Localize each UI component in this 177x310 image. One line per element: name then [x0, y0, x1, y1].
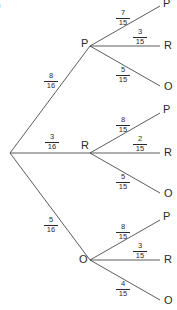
- leaf-r-p: P: [163, 104, 170, 115]
- leaf-o-p: P: [163, 211, 170, 222]
- leaf-r-o: O: [164, 188, 173, 199]
- leaf-p-o: O: [164, 81, 173, 92]
- leaf-r-r: R: [164, 147, 172, 158]
- tree-branches: [0, 0, 177, 310]
- prob-r-r: 2 15: [133, 135, 147, 153]
- leaf-p-r: R: [164, 40, 172, 51]
- prob-o-r: 3 15: [133, 242, 147, 260]
- prob-root-o: 5 16: [44, 216, 58, 234]
- node-r: R: [81, 140, 89, 151]
- prob-r-p: 8 15: [116, 116, 130, 134]
- leaf-o-o: O: [164, 295, 173, 306]
- prob-r-o: 5 15: [116, 173, 130, 191]
- prob-o-o: 4 15: [116, 280, 130, 298]
- node-o: O: [79, 254, 88, 265]
- branch-root-o: [10, 153, 90, 260]
- prob-root-r: 3 16: [45, 133, 59, 151]
- prob-p-p: 7 15: [116, 9, 130, 27]
- prob-p-r: 3 15: [133, 28, 147, 46]
- prob-p-o: 5 15: [116, 66, 130, 84]
- prob-root-p: 8 16: [44, 72, 58, 90]
- node-p: P: [81, 38, 88, 49]
- leaf-o-r: R: [164, 254, 172, 265]
- prob-o-p: 8 15: [116, 223, 130, 241]
- leaf-p-p: P: [163, 0, 170, 9]
